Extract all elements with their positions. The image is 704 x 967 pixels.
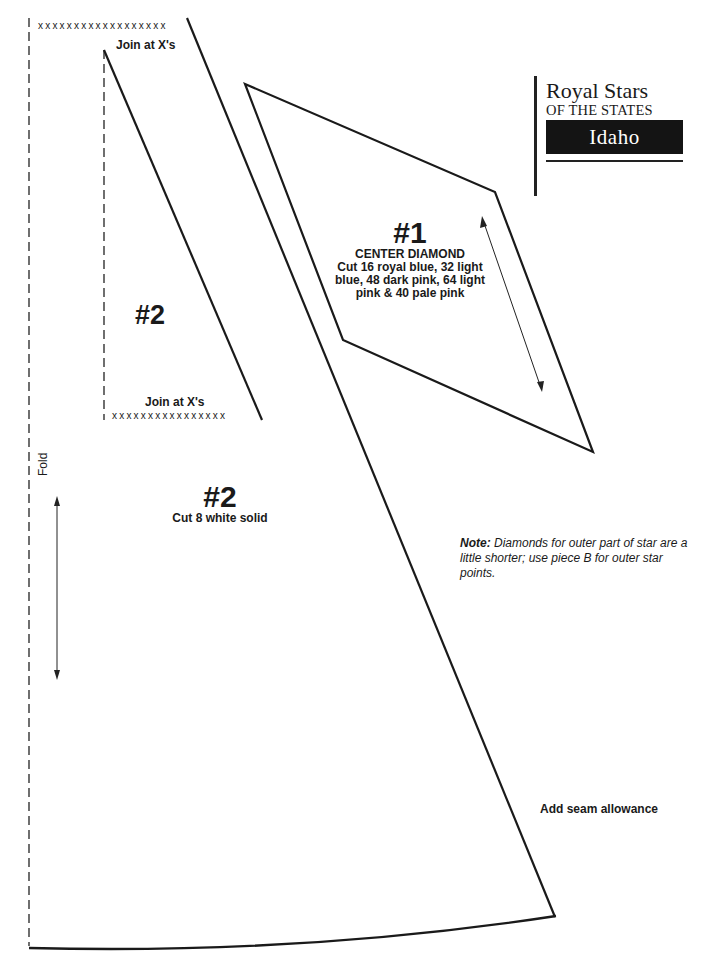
piece1-instructions-line3: pink & 40 pale pink: [312, 287, 508, 300]
join-marks-top: xxxxxxxxxxxxxxxxxx: [38, 20, 168, 31]
strip-slant-edge: [104, 50, 262, 420]
piece2-instructions: Cut 8 white solid: [160, 512, 280, 525]
seam-allowance-note: Add seam allowance: [540, 802, 658, 816]
center-diamond-label: #1 CENTER DIAMOND Cut 16 royal blue, 32 …: [312, 218, 508, 300]
title-rule: [546, 160, 683, 162]
title-royal-stars: Royal Stars: [546, 78, 648, 104]
title-block: Royal Stars OF THE STATES Idaho: [534, 76, 684, 198]
piece2-label: #2 Cut 8 white solid: [160, 482, 280, 525]
fold-label: Fold: [36, 453, 50, 476]
note-label: Note:: [460, 536, 491, 550]
piece2-curved-bottom: [29, 916, 556, 949]
join-label-bottom: Join at X's: [145, 395, 205, 409]
piece2-outer-edge: [187, 18, 555, 917]
join-marks-bottom: xxxxxxxxxxxxxxxx: [112, 410, 227, 421]
piece1-number: #1: [312, 218, 508, 248]
title-vertical-bar: [534, 76, 537, 196]
piece2-number: #2: [160, 482, 280, 512]
state-name-box: Idaho: [546, 120, 683, 154]
note-text: Note: Diamonds for outer part of star ar…: [460, 536, 690, 581]
strip-piece-number: #2: [135, 300, 165, 331]
join-label-top: Join at X's: [116, 38, 176, 52]
note-body: Diamonds for outer part of star are a li…: [460, 536, 687, 580]
grain-arrow-icon: [54, 496, 60, 680]
title-of-the-states: OF THE STATES: [546, 102, 653, 119]
